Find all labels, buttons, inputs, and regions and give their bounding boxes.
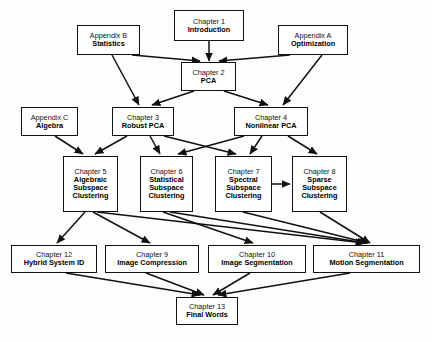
- edge-ch10-to-ch13: [213, 273, 250, 295]
- node-ch10[interactable]: Chapter 10Image Segmentation: [208, 245, 306, 273]
- edge-appc-to-ch5: [55, 136, 83, 154]
- edge-ch3-to-ch6: [150, 136, 160, 154]
- node-ch6[interactable]: Chapter 6Statistical Subspace Clustering: [140, 156, 193, 212]
- flowchart-canvas: Chapter 1IntroductionAppendix BStatistic…: [0, 0, 432, 342]
- node-ch2-subtitle: PCA: [201, 77, 216, 85]
- node-ch6-subtitle: Statistical Subspace Clustering: [144, 176, 189, 200]
- edge-ch5-to-ch9: [93, 212, 150, 243]
- edge-ch4-to-ch8: [288, 136, 317, 154]
- edge-ch5-to-ch11: [97, 212, 364, 243]
- node-ch12-subtitle: Hybrid System ID: [24, 259, 84, 267]
- node-appb[interactable]: Appendix BStatistics: [77, 25, 140, 55]
- edge-appa-to-ch2: [219, 55, 290, 61]
- node-ch9-subtitle: Image Compression: [117, 259, 187, 267]
- node-appa[interactable]: Appendix AOptimization: [278, 25, 348, 55]
- node-ch13-subtitle: Final Words: [186, 311, 228, 319]
- node-ch13[interactable]: Chapter 13Final Words: [176, 297, 238, 325]
- node-ch7[interactable]: Chapter 7Spectral Subspace Clustering: [215, 156, 272, 212]
- edge-ch4-to-ch6: [178, 136, 244, 154]
- node-ch11-subtitle: Motion Segmentation: [329, 259, 403, 267]
- node-ch8[interactable]: Chapter 8Sparse Subspace Clustering: [292, 156, 347, 212]
- node-ch11[interactable]: Chapter 11Motion Segmentation: [313, 245, 420, 273]
- node-appb-subtitle: Statistics: [92, 40, 124, 48]
- node-ch7-subtitle: Spectral Subspace Clustering: [219, 176, 268, 200]
- edge-ch2-to-ch4: [224, 91, 268, 105]
- node-appa-subtitle: Optimization: [291, 40, 335, 48]
- edge-appb-to-ch2: [132, 55, 200, 61]
- edge-ch9-to-ch13: [146, 273, 204, 295]
- edge-ch4-to-ch7: [250, 136, 262, 154]
- edge-ch8-to-ch11: [320, 212, 370, 243]
- node-ch1[interactable]: Chapter 1Introduction: [174, 10, 244, 41]
- edge-ch12-to-ch13: [66, 273, 200, 295]
- edge-ch6-to-ch11: [170, 212, 366, 243]
- edge-ch3-to-ch5: [95, 136, 127, 154]
- node-ch9[interactable]: Chapter 9Image Compression: [105, 245, 199, 273]
- node-ch1-subtitle: Introduction: [188, 26, 231, 34]
- node-ch3[interactable]: Chapter 3Robust PCA: [112, 107, 174, 136]
- edge-ch3-to-ch7: [164, 136, 236, 154]
- edge-ch7-to-ch11: [243, 212, 368, 243]
- node-ch5[interactable]: Chapter 5Algebraic Subspace Clustering: [63, 156, 118, 212]
- node-ch4[interactable]: Chapter 4Nonlinear PCA: [234, 107, 308, 136]
- node-ch3-subtitle: Robust PCA: [122, 122, 165, 130]
- node-ch5-subtitle: Algebraic Subspace Clustering: [67, 176, 114, 200]
- edge-appb-to-ch3: [112, 55, 139, 105]
- edge-ch11-to-ch13: [218, 273, 350, 295]
- node-ch12[interactable]: Chapter 12Hybrid System ID: [11, 245, 97, 273]
- node-appc[interactable]: Appendix CAlgebra: [21, 107, 78, 136]
- node-ch2[interactable]: Chapter 2PCA: [181, 62, 236, 91]
- edge-ch5-to-ch12: [57, 212, 85, 243]
- node-ch10-subtitle: Image Segmentation: [221, 259, 292, 267]
- node-ch8-subtitle: Sparse Subspace Clustering: [296, 176, 343, 200]
- edge-appa-to-ch4: [283, 55, 322, 105]
- edge-ch2-to-ch3: [152, 91, 194, 105]
- edge-ch6-to-ch10: [163, 212, 253, 243]
- node-ch4-subtitle: Nonlinear PCA: [245, 122, 296, 130]
- node-appc-subtitle: Algebra: [36, 122, 63, 130]
